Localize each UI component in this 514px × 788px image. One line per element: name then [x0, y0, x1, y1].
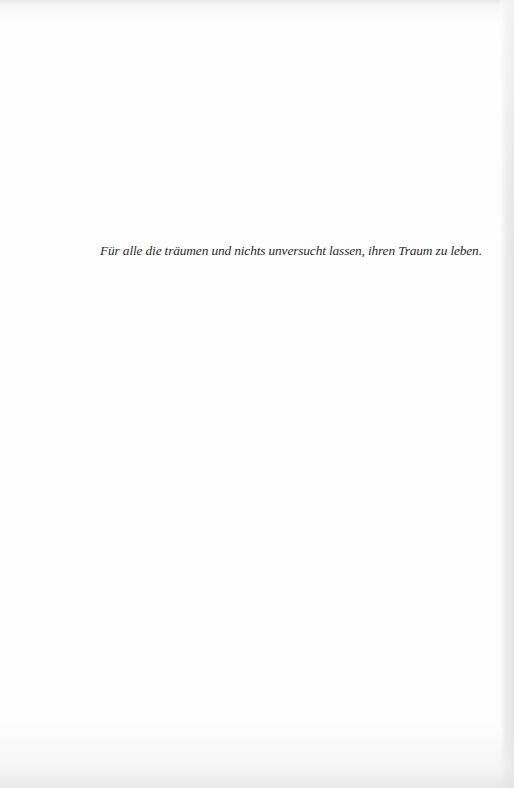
- scan-edge-bottom: [0, 718, 514, 788]
- scan-edge-top: [0, 0, 514, 22]
- scan-edge-right-highlight: [500, 0, 514, 260]
- dedication-text: Für alle die träumen und nichts unversuc…: [100, 243, 446, 259]
- book-page: Für alle die träumen und nichts unversuc…: [0, 0, 514, 788]
